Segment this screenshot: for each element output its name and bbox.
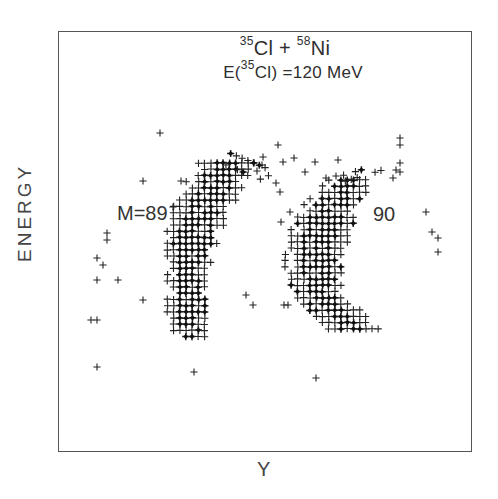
cluster-label-m89: M=89: [117, 202, 168, 225]
energy-prefix: E(: [223, 63, 241, 82]
cluster-label-m90: 90: [373, 203, 395, 226]
energy-mass: 35: [241, 58, 255, 72]
energy-symbol: Cl: [255, 63, 272, 82]
y-axis-label: ENERGY: [14, 164, 36, 262]
energy-value: ) =120 MeV: [271, 63, 362, 82]
target-mass: 58: [297, 34, 311, 48]
plus-sign: +: [273, 37, 297, 59]
target-symbol: Ni: [311, 37, 331, 59]
beam-energy-title: E(35Cl) =120 MeV: [44, 63, 498, 83]
plot-frame: [58, 31, 472, 452]
figure: 35Cl + 58Ni E(35Cl) =120 MeV ENERGY Y M=…: [0, 0, 498, 499]
reaction-title: 35Cl + 58Ni: [36, 37, 498, 60]
x-axis-label: Y: [257, 458, 270, 481]
projectile-symbol: Cl: [254, 37, 274, 59]
projectile-mass: 35: [240, 34, 254, 48]
